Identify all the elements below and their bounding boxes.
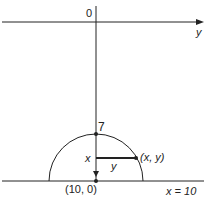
- down-arrow-icon: [93, 171, 99, 177]
- y-axis-label: y: [196, 27, 202, 38]
- bottom-point-label: (10, 0): [65, 184, 97, 195]
- origin-label: 0: [86, 8, 92, 19]
- x-label: x: [85, 153, 91, 164]
- y-segment-label: y: [111, 161, 117, 172]
- point-xy: [134, 156, 138, 160]
- diagram-canvas: [0, 0, 205, 203]
- y-axis-arrow-icon: [196, 19, 204, 25]
- point-xy-label: (x, y): [140, 152, 164, 163]
- top-point-label: 7: [98, 121, 105, 133]
- line-label: x = 10: [166, 186, 196, 197]
